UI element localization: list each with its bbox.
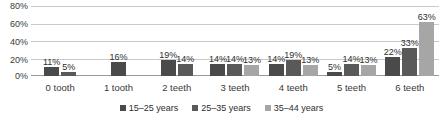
bar-group: 11%5% bbox=[31, 6, 89, 76]
bar-value-label: 5% bbox=[62, 62, 75, 72]
bar-value-label: 11% bbox=[43, 57, 60, 67]
bar-value-label: 19% bbox=[284, 50, 302, 60]
bar[interactable]: 14% bbox=[178, 64, 193, 76]
legend-label: 15–25 years bbox=[129, 103, 179, 113]
x-axis-label: 2 teeth bbox=[148, 80, 206, 96]
x-axis: 0 tooth1 tooth2 teeth3 teeth4 teeth5 tee… bbox=[31, 80, 439, 96]
bar-chart: 80% 60% 40% 20% 0% 11%5%16%19%14%14%14%1… bbox=[0, 0, 443, 119]
bar-slot: 19% bbox=[286, 6, 301, 76]
bar[interactable]: 5% bbox=[61, 72, 76, 76]
bar-value-label: 14% bbox=[226, 54, 244, 64]
bar-value-label: 22% bbox=[384, 47, 402, 57]
y-axis-tick-20: 20% bbox=[10, 56, 28, 65]
bar[interactable]: 22% bbox=[385, 57, 400, 76]
bar-slot: 14% bbox=[227, 6, 242, 76]
bar-value-label: 16% bbox=[109, 52, 127, 62]
bar[interactable]: 13% bbox=[303, 65, 318, 76]
bar-value-label: 14% bbox=[343, 54, 361, 64]
bar-slot: 13% bbox=[244, 6, 259, 76]
bar[interactable]: 13% bbox=[361, 65, 376, 76]
bar[interactable]: 16% bbox=[111, 62, 126, 76]
bar[interactable]: 19% bbox=[161, 60, 176, 76]
y-axis-tick-0: 0% bbox=[15, 72, 28, 81]
legend-item[interactable]: 15–25 years bbox=[120, 103, 179, 113]
bar-slot: 19% bbox=[161, 6, 176, 76]
bar-value-label: 13% bbox=[360, 55, 378, 65]
bar-groups: 11%5%16%19%14%14%14%13%14%19%13%5%14%13%… bbox=[31, 6, 439, 76]
bar-slot: 5% bbox=[327, 6, 342, 76]
bar-value-label: 13% bbox=[301, 55, 319, 65]
bar-slot: 22% bbox=[385, 6, 400, 76]
bar-value-label: 19% bbox=[159, 50, 177, 60]
chart-legend: 15–25 years25–35 years35–44 years bbox=[0, 101, 443, 115]
plot-area: 11%5%16%19%14%14%14%13%14%19%13%5%14%13%… bbox=[31, 6, 439, 76]
bar[interactable]: 5% bbox=[327, 72, 342, 76]
bar-value-label: 13% bbox=[243, 55, 261, 65]
bar-slot: 14% bbox=[178, 6, 193, 76]
bar-value-label: 63% bbox=[418, 12, 436, 22]
bar-value-label: 5% bbox=[328, 62, 341, 72]
bar[interactable]: 14% bbox=[269, 64, 284, 76]
bar-group: 22%33%63% bbox=[381, 6, 439, 76]
bar-slot: 14% bbox=[210, 6, 225, 76]
bar-group: 14%19%13% bbox=[264, 6, 322, 76]
bar-slot: 14% bbox=[269, 6, 284, 76]
x-axis-label: 3 teeth bbox=[206, 80, 264, 96]
x-axis-label: 4 teeth bbox=[264, 80, 322, 96]
y-axis-tick-80: 80% bbox=[10, 2, 28, 11]
legend-item[interactable]: 25–35 years bbox=[192, 103, 251, 113]
bar[interactable]: 14% bbox=[344, 64, 359, 76]
legend-swatch-icon bbox=[265, 105, 271, 111]
bar-slot: 13% bbox=[303, 6, 318, 76]
bar[interactable]: 19% bbox=[286, 60, 301, 76]
bar[interactable]: 33% bbox=[402, 48, 417, 76]
x-axis-label: 5 teeth bbox=[322, 80, 380, 96]
x-axis-label: 1 tooth bbox=[89, 80, 147, 96]
bar-value-label: 14% bbox=[209, 54, 227, 64]
bar-group: 16% bbox=[89, 6, 147, 76]
legend-swatch-icon bbox=[192, 105, 198, 111]
bar[interactable]: 14% bbox=[227, 64, 242, 76]
legend-label: 25–35 years bbox=[201, 103, 251, 113]
legend-label: 35–44 years bbox=[274, 103, 324, 113]
y-axis-tick-40: 40% bbox=[10, 38, 28, 47]
legend-swatch-icon bbox=[120, 105, 126, 111]
bar[interactable]: 13% bbox=[244, 65, 259, 76]
y-axis: 80% 60% 40% 20% 0% bbox=[0, 0, 30, 82]
bar[interactable]: 63% bbox=[419, 22, 434, 76]
bar-slot: 13% bbox=[361, 6, 376, 76]
bar-group: 5%14%13% bbox=[322, 6, 380, 76]
bar-value-label: 33% bbox=[401, 38, 419, 48]
bar-slot: 5% bbox=[61, 6, 76, 76]
bar-group: 14%14%13% bbox=[206, 6, 264, 76]
x-axis-label: 0 tooth bbox=[31, 80, 89, 96]
bar[interactable]: 14% bbox=[210, 64, 225, 76]
bar-value-label: 14% bbox=[267, 54, 285, 64]
bar-slot: 33% bbox=[402, 6, 417, 76]
bar[interactable]: 11% bbox=[44, 67, 59, 76]
bar-slot: 63% bbox=[419, 6, 434, 76]
x-axis-label: 6 teeth bbox=[381, 80, 439, 96]
bar-slot: 11% bbox=[44, 6, 59, 76]
bar-value-label: 14% bbox=[176, 54, 194, 64]
legend-item[interactable]: 35–44 years bbox=[265, 103, 324, 113]
y-axis-tick-60: 60% bbox=[10, 20, 28, 29]
bar-slot: 14% bbox=[344, 6, 359, 76]
bar-slot: 16% bbox=[111, 6, 126, 76]
bar-group: 19%14% bbox=[148, 6, 206, 76]
